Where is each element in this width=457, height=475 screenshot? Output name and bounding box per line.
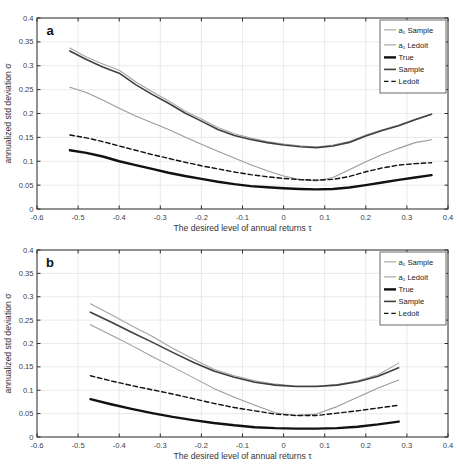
x-tick-label: 0.3	[402, 441, 413, 450]
y-tick-label: 0.4	[23, 14, 34, 23]
y-axis-label: annualized std deviation σ	[3, 63, 13, 164]
legend-label-true: True	[399, 285, 414, 294]
legend-label-a1-sample: a₁ Sample	[399, 26, 434, 35]
x-tick-label: -0.3	[154, 441, 167, 450]
y-tick-label: 0.3	[23, 61, 34, 70]
legend-label-a1-sample: a₁ Sample	[399, 258, 434, 267]
legend-label-true: True	[399, 53, 414, 62]
x-tick-label: -0.1	[236, 213, 249, 222]
y-tick-label: 0.25	[19, 85, 34, 94]
x-tick-label: -0.2	[195, 441, 208, 450]
y-tick-label: 0.35	[19, 269, 34, 278]
panel-letter: a	[46, 23, 54, 38]
legend-label-ledoit: Ledoit	[399, 309, 421, 318]
x-tick-label: -0.5	[72, 213, 85, 222]
x-tick-label: 0.1	[319, 213, 330, 222]
x-tick-label: -0.4	[113, 213, 126, 222]
x-axis-label: The desired level of annual returns τ	[173, 451, 312, 461]
y-tick-label: 0.3	[23, 292, 34, 301]
y-tick-label: 0.4	[23, 246, 34, 255]
legend-label-ledoit: Ledoit	[399, 77, 421, 86]
x-tick-label: 0.3	[402, 213, 413, 222]
legend: a₁ Samplea₁ LedoitTrueSampleLedoit	[380, 252, 446, 325]
x-tick-label: -0.2	[195, 213, 208, 222]
y-tick-label: 0.25	[19, 316, 34, 325]
x-tick-label: -0.3	[154, 213, 167, 222]
x-tick-label: -0.4	[113, 441, 126, 450]
x-tick-label: 0.4	[443, 441, 454, 450]
x-axis-label: The desired level of annual returns τ	[173, 223, 312, 233]
y-tick-label: 0.15	[19, 133, 34, 142]
panel-letter: b	[46, 255, 54, 270]
x-tick-label: -0.6	[30, 441, 43, 450]
two-panel-line-chart: -0.6-0.5-0.4-0.3-0.2-0.100.10.20.30.400.…	[0, 0, 457, 475]
x-tick-label: 0	[281, 213, 285, 222]
figure: -0.6-0.5-0.4-0.3-0.2-0.100.10.20.30.400.…	[0, 0, 457, 475]
y-tick-label: 0.2	[23, 339, 34, 348]
x-tick-label: 0.1	[319, 441, 330, 450]
y-tick-label: 0.05	[19, 409, 34, 418]
y-tick-label: 0.15	[19, 362, 34, 371]
x-tick-label: 0.2	[361, 441, 372, 450]
x-tick-label: 0	[281, 441, 285, 450]
y-tick-label: 0.35	[19, 37, 34, 46]
y-tick-label: 0.05	[19, 181, 34, 190]
x-tick-label: 0.4	[443, 213, 454, 222]
panel-a: -0.6-0.5-0.4-0.3-0.2-0.100.10.20.30.400.…	[3, 14, 454, 233]
x-tick-label: -0.5	[72, 441, 85, 450]
legend-label-sample: Sample	[399, 65, 425, 74]
legend: a₁ Samplea₁ LedoitTrueSampleLedoit	[380, 20, 446, 93]
legend-label-sample: Sample	[399, 297, 425, 306]
y-tick-label: 0.2	[23, 109, 34, 118]
y-tick-label: 0	[29, 433, 33, 442]
y-tick-label: 0	[29, 205, 33, 214]
legend-label-a1-ledoit: a₁ Ledoit	[399, 273, 429, 282]
legend-label-a1-ledoit: a₁ Ledoit	[399, 41, 429, 50]
panel-b: -0.6-0.5-0.4-0.3-0.2-0.100.10.20.30.400.…	[3, 246, 454, 461]
y-tick-label: 0.1	[23, 386, 34, 395]
x-tick-label: -0.6	[30, 213, 43, 222]
y-axis-label: annualized std deviation σ	[3, 293, 13, 394]
x-tick-label: 0.2	[361, 213, 372, 222]
y-tick-label: 0.1	[23, 157, 34, 166]
x-tick-label: -0.1	[236, 441, 249, 450]
